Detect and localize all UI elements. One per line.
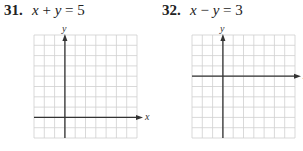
y-axis-label: y bbox=[219, 23, 225, 34]
coordinate-grid-31[interactable] bbox=[34, 34, 143, 138]
graph-canvas: y x y x bbox=[0, 0, 303, 151]
y-axis-label: y bbox=[61, 23, 67, 34]
x-axis-label: x bbox=[144, 111, 150, 122]
x-axis-label: x bbox=[302, 70, 303, 81]
coordinate-grid-32[interactable] bbox=[192, 34, 301, 138]
